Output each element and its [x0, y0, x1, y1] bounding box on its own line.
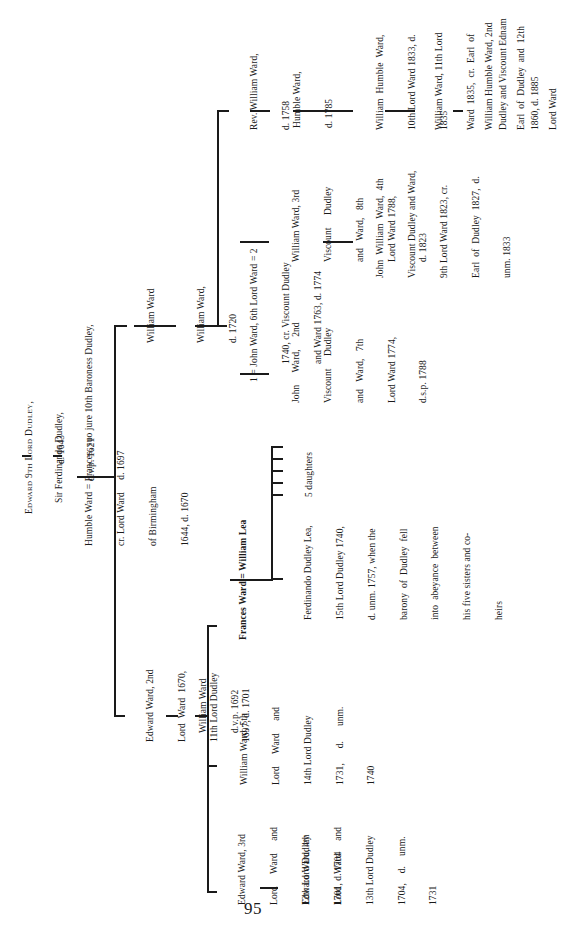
person-john-ward-2nd-viscount: John Ward, 2nd Viscount Dudley and Ward,… [270, 322, 440, 403]
person-humble-ward-and-frances: Humble Ward = Frances, suo jure 10th Bar… [63, 324, 201, 546]
person-humble-ward-d1785: Humble Ward, d. 1785 [271, 71, 345, 128]
person-name: William Humble Ward, [375, 34, 386, 130]
person-name: 1 = John Ward, 6th Lord Ward = 2 [249, 248, 260, 382]
person-name: Frances Ward = William Lea [238, 520, 249, 640]
person-william-ward-5th-lord: William Ward, 5th Lord Ward and 14th Lor… [218, 706, 388, 785]
person-detail: Lord Ward [548, 22, 559, 130]
person-name: William Ward [198, 679, 209, 734]
person-edward-ward-4th-lord: Edward Ward, 4th Lord Ward and 13th Lord… [280, 827, 450, 905]
person-detail: 14th Lord Dudley [303, 706, 314, 785]
person-detail: and Ward, 7th [355, 322, 366, 403]
person-detail: Earl of Dudley and 12th [516, 22, 527, 130]
person-detail: into abeyance between [430, 525, 441, 620]
person-detail: of Birmingham [148, 324, 159, 546]
person-detail: Earl of Dudley 1827, d. [471, 170, 482, 278]
person-detail: Lord Ward and [271, 706, 282, 785]
person-name: Rev. William Ward, [249, 53, 260, 130]
person-john-william-ward-4th-viscount: John William Ward, 4th Viscount Dudley a… [354, 170, 524, 278]
line-daughter-2 [271, 458, 283, 460]
person-detail: 15th Lord Dudley 1740, [335, 525, 346, 620]
person-name: Edward Ward, 4th [301, 827, 312, 905]
person-name: John William Ward, 4th [375, 170, 386, 278]
person-detail: Lord Ward and [333, 827, 344, 905]
person-detail: barony of Dudley fell [399, 525, 410, 620]
line-spine-to-frances [207, 625, 217, 627]
person-detail: d. 1785 [324, 71, 335, 128]
spine-lea-children [271, 446, 273, 581]
person-detail: 1731 [428, 827, 439, 905]
person-ferdinando-dudley-lea: Ferdinando Dudley Lea, 15th Lord Dudley … [282, 525, 515, 620]
person-detail: heirs [494, 525, 505, 620]
person-name: Edward Ward, 3rd [237, 827, 248, 905]
person-detail: Viscount Dudley [323, 322, 334, 403]
line-john-6th-to-3rd-viscount [240, 241, 269, 243]
person-name: 5 daughters [304, 452, 315, 497]
person-name: John Ward, 2nd [291, 322, 302, 403]
person-name: Humble Ward = Frances, suo jure 10th Bar… [84, 324, 95, 546]
person-william-humble-ward-2nd-earl: William Humble Ward, 2nd Earl of Dudley … [463, 22, 561, 130]
page-number: 95 [244, 899, 262, 919]
person-detail: 1644, d. 1670 [180, 324, 191, 546]
line-daughter-5 [271, 494, 283, 496]
person-detail: d. unm. 1757, when the [367, 525, 378, 620]
line-daughter-3 [271, 470, 283, 472]
person-detail: 1740 [366, 706, 377, 785]
person-name: Edward Ward, 2nd [145, 669, 156, 742]
person-detail: 9th Lord Ward 1823, cr. [439, 170, 450, 278]
person-name: William Humble Ward, 2nd [484, 22, 495, 130]
person-detail: his five sisters and co- [462, 525, 473, 620]
person-detail: 13th Lord Dudley [365, 827, 376, 905]
spine-william-1692-children [207, 625, 209, 893]
person-name: William Ward, 3rd [291, 187, 302, 262]
line-spine-to-daughters [271, 446, 283, 448]
person-name: William Ward, 5th [239, 706, 250, 785]
person-detail: Viscount Dudley and Ward, [407, 170, 418, 278]
person-detail: 1731, d. unm. [335, 706, 346, 785]
person-william-ward: William Ward [125, 289, 167, 344]
person-name: William Ward, 11th Lord [434, 18, 445, 130]
five-daughters: 5 daughters [283, 452, 325, 497]
person-detail: Lord Ward 1774, [387, 322, 398, 403]
line-spine-to-william-5th [207, 765, 217, 767]
person-detail: cr. Lord Ward d. 1697 [116, 324, 127, 546]
person-frances-ward-and-william-lea: Frances Ward = William Lea [217, 520, 259, 640]
person-name: Humble Ward, [292, 71, 303, 128]
person-name: Ferdinando Dudley Lea, [303, 525, 314, 620]
person-detail: Viscount Dudley [323, 187, 334, 262]
person-name: William Ward [146, 289, 157, 344]
person-detail: unm. 1833 [502, 170, 513, 278]
line-daughter-4 [271, 482, 283, 484]
person-detail: d.s.p. 1788 [418, 322, 429, 403]
person-name: William Ward, [196, 286, 207, 343]
person-detail: Lord Ward and [269, 827, 280, 905]
person-detail: 1704, d. unm. [397, 827, 408, 905]
